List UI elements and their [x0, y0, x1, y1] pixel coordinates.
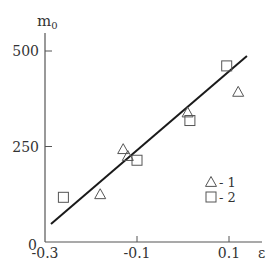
- legend-square-icon: [206, 192, 216, 202]
- triangle-marker: [95, 189, 106, 199]
- y-tick-label: 250: [12, 139, 39, 155]
- legend: - 1- 2: [206, 175, 236, 205]
- axes: 0250500-0.3-0.10.1: [12, 33, 262, 261]
- x-tick-label: 0.1: [218, 245, 240, 261]
- axis-labels: m0ε: [37, 12, 265, 261]
- fit-line: [51, 56, 247, 224]
- x-axis-label: ε: [258, 245, 265, 261]
- legend-label: - 1: [219, 175, 236, 190]
- triangle-marker: [233, 86, 244, 96]
- legend-triangle-icon: [206, 177, 217, 187]
- scatter-chart: 0250500-0.3-0.10.1 - 1- 2 m0ε: [0, 0, 280, 273]
- regression-line: [51, 56, 247, 224]
- square-marker: [58, 192, 68, 202]
- y-tick-label: 500: [12, 43, 39, 59]
- legend-label: - 2: [219, 190, 236, 205]
- y-axis-label: m0: [37, 12, 58, 31]
- x-tick-label: -0.1: [124, 245, 151, 261]
- x-tick-label: -0.3: [32, 245, 59, 261]
